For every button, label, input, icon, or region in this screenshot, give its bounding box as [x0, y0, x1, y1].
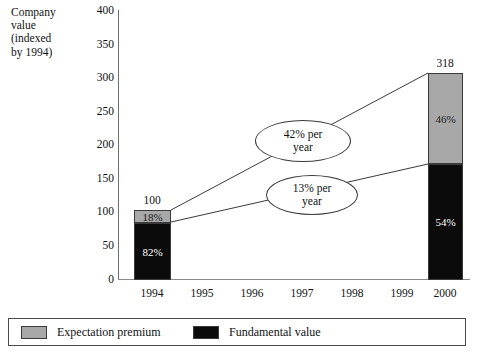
- y-tick-350: 350: [82, 37, 114, 51]
- bar-total-2000: 318: [421, 57, 469, 69]
- y-tick-300: 300: [82, 70, 114, 84]
- annotation-growth-fundamental-line-1: 13% per: [293, 182, 332, 195]
- annotation-growth-fundamental: 13% per year: [266, 175, 358, 215]
- x-tick-1997: 1997: [278, 287, 326, 299]
- annotation-growth-total: 42% per year: [255, 120, 351, 162]
- legend-swatch-fundamental-value: [193, 326, 219, 339]
- x-tick-1998: 1998: [328, 287, 376, 299]
- legend-label-expectation-premium: Expectation premium: [57, 325, 161, 340]
- x-tick-1994: 1994: [128, 287, 176, 299]
- y-tick-400: 400: [82, 3, 114, 17]
- bar-label-fundamental-1994: 82%: [142, 246, 162, 258]
- y-axis-title: Company value (indexed by 1994): [11, 6, 91, 59]
- y-axis-line: [118, 10, 119, 280]
- y-axis-tick-labels: 400 350 300 250 200 150 100 50 0: [82, 0, 114, 353]
- y-tick-50: 50: [82, 238, 114, 252]
- annotation-growth-fundamental-line-2: year: [293, 195, 332, 208]
- legend-label-fundamental-value: Fundamental value: [229, 325, 321, 340]
- legend-entry-fundamental-value: Fundamental value: [193, 319, 321, 345]
- y-axis-title-line-3: (indexed: [11, 32, 91, 45]
- bar-total-1994: 100: [128, 194, 176, 206]
- y-axis-title-line-1: Company: [11, 6, 91, 19]
- chart-figure: Company value (indexed by 1994) 400 350 …: [0, 0, 477, 353]
- y-tick-150: 150: [82, 171, 114, 185]
- legend-entry-expectation-premium: Expectation premium: [21, 319, 161, 345]
- y-axis-title-line-2: value: [11, 19, 91, 32]
- annotation-growth-total-line-2: year: [284, 141, 323, 154]
- bar-segment-fundamental-1994: 82%: [134, 223, 171, 280]
- y-tick-100: 100: [82, 204, 114, 218]
- bar-label-fundamental-2000: 54%: [435, 216, 455, 228]
- x-tick-2000: 2000: [421, 287, 469, 299]
- bar-label-premium-2000: 46%: [435, 113, 455, 125]
- y-tick-200: 200: [82, 137, 114, 151]
- annotation-growth-total-line-1: 42% per: [284, 128, 323, 141]
- x-tick-1996: 1996: [228, 287, 276, 299]
- y-tick-250: 250: [82, 104, 114, 118]
- legend-swatch-expectation-premium: [21, 326, 47, 339]
- bar-segment-fundamental-2000: 54%: [428, 164, 463, 280]
- y-tick-0: 0: [82, 272, 114, 286]
- x-tick-1999: 1999: [378, 287, 426, 299]
- chart-legend: Expectation premium Fundamental value: [8, 318, 466, 346]
- bar-label-premium-1994: 18%: [142, 211, 162, 223]
- x-tick-1995: 1995: [178, 287, 226, 299]
- bar-segment-premium-1994: 18%: [134, 210, 171, 223]
- y-axis-title-line-4: by 1994): [11, 46, 91, 59]
- bar-segment-premium-2000: 46%: [428, 73, 463, 164]
